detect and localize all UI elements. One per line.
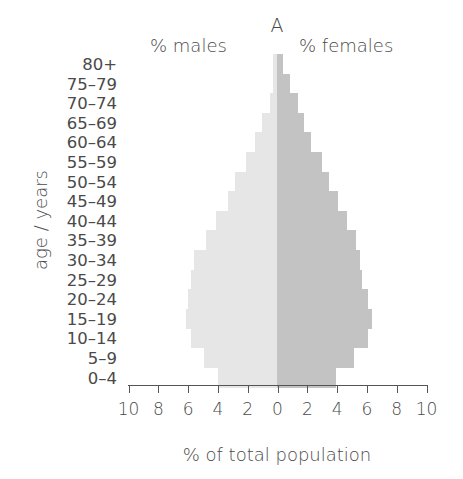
males-header-label: % males <box>150 35 227 56</box>
male-bar <box>206 230 277 250</box>
female-bar <box>277 191 338 211</box>
male-bar <box>191 328 277 348</box>
age-group-label: 80+ <box>82 55 117 75</box>
age-group-label: 10–14 <box>67 329 117 349</box>
age-group-label: 70–74 <box>67 94 117 114</box>
x-axis-tick <box>337 385 338 393</box>
x-axis-tick-label: 10 <box>416 399 438 419</box>
x-axis-tick <box>367 385 368 393</box>
male-bar <box>270 93 277 113</box>
age-group-label: 50–54 <box>67 173 117 193</box>
female-bar <box>277 152 322 172</box>
x-axis-tick-label: 6 <box>183 399 194 419</box>
male-bar <box>262 113 277 133</box>
age-group-label: 15–19 <box>67 310 117 330</box>
female-bar <box>277 289 368 309</box>
male-bar <box>188 289 277 309</box>
age-group-label: 0–4 <box>88 369 117 389</box>
x-axis-tick-label: 4 <box>212 399 223 419</box>
male-bar <box>204 348 277 368</box>
x-axis-tick <box>278 385 279 393</box>
female-bar <box>277 270 362 290</box>
x-axis-tick-label: 0 <box>272 399 283 419</box>
female-bar <box>277 74 290 94</box>
male-bar <box>216 211 277 231</box>
female-bar <box>277 250 360 270</box>
female-bar <box>277 309 372 329</box>
female-bar <box>277 113 304 133</box>
female-bar <box>277 328 368 348</box>
female-bar <box>277 211 347 231</box>
male-bar <box>228 191 277 211</box>
x-axis-tick <box>248 385 249 393</box>
male-bar <box>235 172 277 192</box>
age-group-label: 35–39 <box>67 231 117 251</box>
x-axis-tick-label: 2 <box>242 399 253 419</box>
x-axis-tick-label: 6 <box>361 399 372 419</box>
x-axis-tick-label: 4 <box>332 399 343 419</box>
x-axis-tick-label: 10 <box>118 399 140 419</box>
y-axis-label: age / years <box>30 170 51 270</box>
x-axis-tick <box>129 385 130 393</box>
x-axis-tick <box>307 385 308 393</box>
female-bar <box>277 132 311 152</box>
females-header-label: % females <box>299 35 393 56</box>
age-group-label: 75–79 <box>67 75 117 95</box>
male-bar <box>194 250 277 270</box>
x-axis-label: % of total population <box>183 444 372 465</box>
age-group-label: 60–64 <box>67 133 117 153</box>
age-group-label: 30–34 <box>67 251 117 271</box>
x-axis-tick <box>397 385 398 393</box>
age-group-label: 5–9 <box>88 349 117 369</box>
female-bar <box>277 54 283 74</box>
male-bar <box>186 309 277 329</box>
x-axis-tick-label: 8 <box>153 399 164 419</box>
female-bar <box>277 172 329 192</box>
chart-title: A <box>267 14 287 36</box>
age-group-label: 55–59 <box>67 153 117 173</box>
female-bar <box>277 348 354 368</box>
x-axis-tick-label: 2 <box>302 399 313 419</box>
age-group-label: 65–69 <box>67 114 117 134</box>
x-axis-tick-label: 8 <box>391 399 402 419</box>
x-axis-tick <box>158 385 159 393</box>
age-group-label: 25–29 <box>67 271 117 291</box>
female-bar <box>277 230 356 250</box>
age-group-label: 20–24 <box>67 290 117 310</box>
male-bar <box>255 132 277 152</box>
female-bar <box>277 93 298 113</box>
x-axis-tick <box>427 385 428 393</box>
male-bar <box>191 270 277 290</box>
x-axis-tick <box>218 385 219 393</box>
age-group-label: 45–49 <box>67 192 117 212</box>
age-group-label: 40–44 <box>67 212 117 232</box>
male-bar <box>246 152 277 172</box>
x-axis-tick <box>188 385 189 393</box>
